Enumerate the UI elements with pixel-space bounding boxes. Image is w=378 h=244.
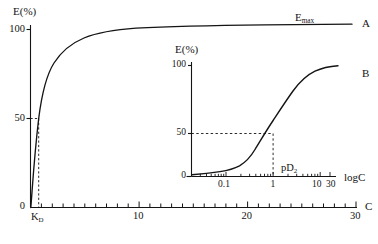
curve-b-path	[192, 66, 338, 175]
main-x-axis-label: C	[365, 201, 372, 212]
main-y-tick-0: 0	[0, 201, 25, 212]
inset-y-tick-100: 100	[162, 60, 186, 70]
inset-x-tick-30: 30	[326, 180, 336, 190]
main-x-tick-30: 30	[350, 211, 361, 222]
main-x-tick-20: 20	[242, 211, 253, 222]
inset-y-tick-0: 0	[162, 171, 186, 181]
main-y-ticks	[27, 30, 31, 119]
figure-canvas	[0, 0, 378, 244]
pd2-label: pD2	[281, 163, 297, 174]
main-x-ticks	[41, 202, 356, 208]
main-y-axis-title: E(%)	[13, 6, 36, 17]
main-y-tick-50: 50	[0, 113, 25, 124]
inset-x-tick-10: 10	[312, 180, 322, 190]
inset-x-tick-01: 0.1	[218, 180, 230, 190]
inset-x-tick-1: 1	[271, 180, 276, 190]
curve-label-b: B	[362, 68, 369, 79]
main-x-tick-10: 10	[133, 211, 144, 222]
inset-y-axis-title: E(%)	[175, 44, 198, 55]
pd2-label-subscript: 2	[294, 167, 297, 174]
main-y-tick-100: 100	[0, 24, 25, 35]
inset-x-ticks	[200, 172, 330, 177]
pd2-label-base: pD	[281, 162, 294, 173]
kd-label-base: K	[31, 211, 39, 222]
emax-label-subscript: max	[302, 17, 314, 25]
inset-plot-group	[187, 62, 339, 177]
inset-y-tick-50: 50	[162, 128, 186, 138]
emax-label-base: E	[295, 11, 302, 23]
kd-label: KD	[31, 212, 44, 223]
emax-label: Emax	[295, 12, 314, 25]
curve-label-a: A	[362, 18, 370, 29]
kd-label-subscript: D	[39, 216, 44, 223]
inset-x-axis-label: logC	[344, 172, 365, 183]
inset-y-ticks	[187, 66, 192, 177]
dose-response-figure: E(%) 100 50 0 10 20 30 C KD Emax A E(%) …	[0, 0, 378, 244]
